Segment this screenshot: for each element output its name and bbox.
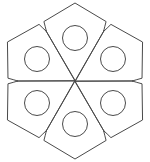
petal-upper-right-outline bbox=[75, 24, 143, 81]
petal-lower-right-ring bbox=[101, 91, 126, 116]
petal-group bbox=[7, 3, 142, 159]
petal-upper-left-ring bbox=[25, 47, 50, 72]
artboard bbox=[0, 0, 150, 162]
petal-lower-right-outline bbox=[75, 81, 143, 138]
petal-lower-left-ring bbox=[25, 91, 50, 116]
petal-upper-right-ring bbox=[101, 47, 126, 72]
petal-bottom-ring bbox=[63, 112, 88, 137]
petal-upper-left-outline bbox=[7, 24, 75, 81]
petal-top-outline bbox=[44, 3, 106, 81]
six-petal-rosette-drawing bbox=[0, 0, 150, 162]
petal-lower-left-outline bbox=[7, 81, 75, 138]
petal-bottom-outline bbox=[44, 81, 106, 159]
petal-top-ring bbox=[63, 26, 88, 51]
